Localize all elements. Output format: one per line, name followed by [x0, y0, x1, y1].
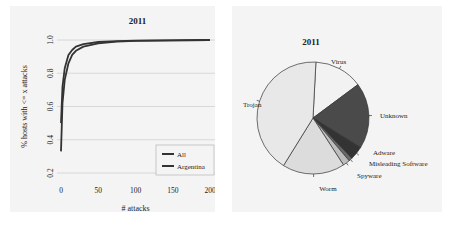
pie-label: Worm	[319, 185, 337, 193]
legend: AllArgentina	[156, 145, 214, 175]
series-line-argentina	[61, 40, 210, 151]
y-tick-label: 0.4	[46, 135, 55, 145]
pie-chart-panel: 2011VirusUnknownAdwareMisleading Softwar…	[232, 6, 442, 212]
x-tick-label: 0	[59, 186, 63, 195]
y-tick-label: 0.8	[46, 68, 55, 78]
legend-label: Argentina	[177, 163, 206, 171]
y-tick-label: 1.0	[46, 35, 55, 45]
pie-label: Virus	[331, 58, 346, 66]
x-tick-label: 100	[130, 186, 142, 195]
leader-line	[357, 153, 359, 155]
pie-label: Unknown	[380, 112, 408, 120]
x-tick-label: 50	[95, 186, 103, 195]
pie-label: Adware	[373, 149, 395, 157]
malware-pie-chart: 2011VirusUnknownAdwareMisleading Softwar…	[232, 6, 442, 212]
y-tick-label: 0.6	[46, 102, 55, 112]
x-axis-label: # attacks	[121, 204, 149, 212]
x-tick-label: 150	[167, 186, 179, 195]
y-tick-label: 0.2	[46, 168, 55, 178]
pie-label: Trojan	[243, 101, 262, 109]
line-chart-title: 2011	[129, 16, 147, 26]
y-axis-label: % hosts with <= x attacks	[20, 65, 29, 148]
cdf-line-chart: 20110.20.40.60.81.0050100150200# attacks…	[10, 6, 215, 212]
pie-label: Misleading Software	[369, 160, 428, 168]
x-tick-label: 200	[204, 186, 215, 195]
pie-chart-title: 2011	[302, 37, 320, 47]
cdf-chart-panel: 20110.20.40.60.81.0050100150200# attacks…	[10, 6, 215, 212]
legend-label: All	[177, 151, 186, 159]
series-line-all	[61, 40, 210, 123]
leader-line	[346, 163, 348, 165]
leader-line	[350, 160, 352, 162]
leader-line	[339, 66, 340, 69]
pie-label: Spyware	[357, 172, 382, 180]
